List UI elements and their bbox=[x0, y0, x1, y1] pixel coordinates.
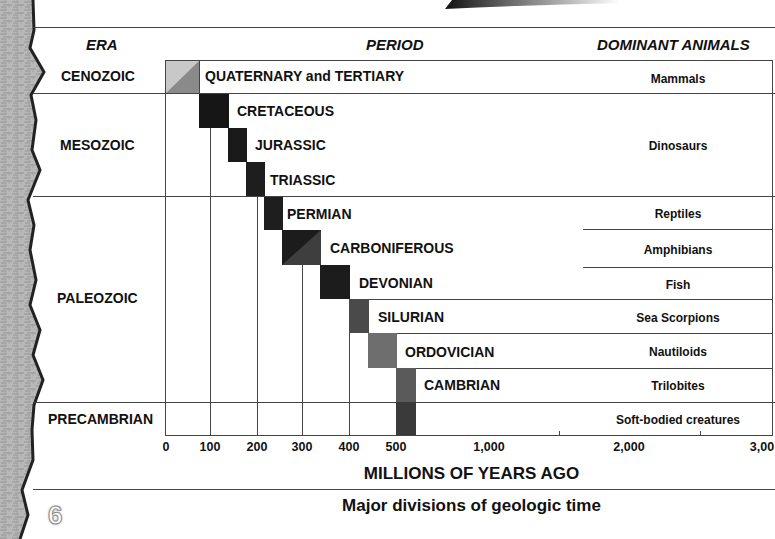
row-divider-ordovician bbox=[396, 368, 772, 369]
cenozoic-block-edge bbox=[199, 60, 200, 94]
block-carboniferous bbox=[282, 230, 321, 265]
table-top-rule bbox=[165, 60, 772, 61]
tick-1500 bbox=[559, 431, 560, 435]
period-quaternary-tertiary: QUATERNARY and TERTIARY bbox=[205, 68, 404, 84]
chart-caption: Major divisions of geologic time bbox=[0, 496, 775, 516]
period-permian: PERMIAN bbox=[287, 206, 352, 222]
block-devonian bbox=[320, 265, 350, 299]
era-divider-cenozoic bbox=[33, 93, 775, 94]
animal-nautiloids: Nautiloids bbox=[583, 345, 773, 359]
animal-reptiles: Reptiles bbox=[583, 207, 773, 221]
tick-label-2000: 2,000 bbox=[613, 440, 644, 454]
header-era: ERA bbox=[86, 36, 118, 53]
x-axis-label: MILLIONS OF YEARS AGO bbox=[0, 464, 775, 484]
period-cretaceous: CRETACEOUS bbox=[237, 103, 334, 119]
gridline-100 bbox=[210, 128, 211, 435]
gridline-200 bbox=[257, 196, 258, 435]
era-divider-mesozoic bbox=[33, 196, 775, 197]
bottom-rule bbox=[33, 489, 775, 490]
period-silurian: SILURIAN bbox=[378, 309, 444, 325]
animal-amphibians: Amphibians bbox=[583, 243, 773, 257]
left-frame bbox=[165, 60, 166, 435]
animal-soft-bodied: Soft-bodied creatures bbox=[583, 413, 773, 427]
block-cretaceous bbox=[199, 94, 229, 128]
tick-2500 bbox=[700, 431, 701, 435]
tick-label-300: 300 bbox=[292, 440, 313, 454]
block-cambrian bbox=[396, 368, 416, 402]
gridline-300 bbox=[302, 265, 303, 435]
period-jurassic: JURASSIC bbox=[255, 137, 326, 153]
top-swoosh-decoration bbox=[440, 0, 620, 10]
block-cenozoic bbox=[166, 61, 199, 93]
animal-dinosaurs: Dinosaurs bbox=[583, 139, 773, 153]
row-divider-silurian bbox=[369, 333, 772, 334]
row-divider-devonian bbox=[349, 299, 772, 300]
page-number: 6 bbox=[48, 500, 62, 531]
animal-mammals: Mammals bbox=[583, 72, 773, 86]
tick-label-400: 400 bbox=[339, 440, 360, 454]
tick-label-1000: 1,000 bbox=[473, 440, 504, 454]
axis-baseline bbox=[165, 435, 772, 436]
era-cenozoic: CENOZOIC bbox=[61, 68, 135, 84]
period-ordovician: ORDOVICIAN bbox=[405, 344, 494, 360]
row-divider-reptiles bbox=[583, 229, 772, 230]
era-precambrian: PRECAMBRIAN bbox=[48, 411, 153, 427]
tick-label-3000: 3,00 bbox=[750, 440, 774, 454]
animal-sea-scorpions: Sea Scorpions bbox=[583, 311, 773, 325]
header-period: PERIOD bbox=[366, 36, 424, 53]
block-ordovician bbox=[368, 333, 397, 368]
animal-trilobites: Trilobites bbox=[583, 379, 773, 393]
block-permian bbox=[264, 197, 283, 230]
tick-label-500: 500 bbox=[386, 440, 407, 454]
tick-label-200: 200 bbox=[247, 440, 268, 454]
top-rule bbox=[33, 27, 775, 28]
block-precambrian bbox=[396, 402, 416, 435]
period-devonian: DEVONIAN bbox=[359, 275, 433, 291]
era-mesozoic: MESOZOIC bbox=[60, 137, 135, 153]
header-animals: DOMINANT ANIMALS bbox=[597, 36, 750, 53]
row-divider-amphibians bbox=[583, 267, 772, 268]
block-jurassic bbox=[228, 128, 247, 162]
stone-border-decoration bbox=[0, 0, 60, 539]
block-silurian bbox=[349, 299, 369, 333]
period-carboniferous: CARBONIFEROUS bbox=[330, 240, 454, 256]
tick-label-0: 0 bbox=[163, 440, 170, 454]
animal-fish: Fish bbox=[583, 278, 773, 292]
era-paleozoic: PALEOZOIC bbox=[57, 290, 138, 306]
period-triassic: TRIASSIC bbox=[270, 172, 335, 188]
block-triassic bbox=[246, 162, 265, 196]
tick-label-100: 100 bbox=[200, 440, 221, 454]
period-cambrian: CAMBRIAN bbox=[424, 377, 500, 393]
